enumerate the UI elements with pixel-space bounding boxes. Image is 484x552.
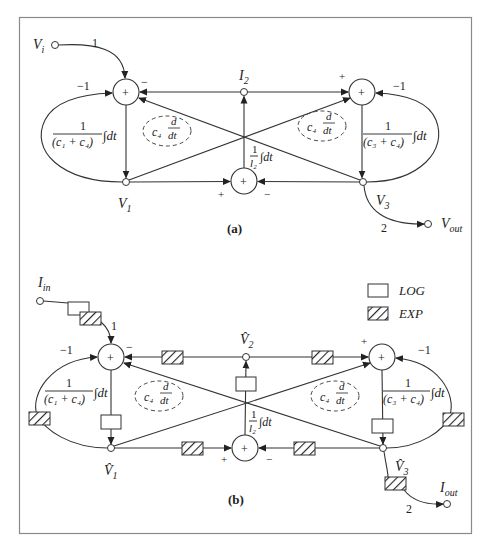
svg-text:∫dt: ∫dt: [259, 150, 273, 164]
svg-text:∫dt: ∫dt: [430, 385, 445, 401]
right-integrator-a: 1 (c₃ + c₄) ∫dt: [363, 119, 427, 149]
bottom-summer-sign-left-a: +: [218, 188, 224, 200]
bottom-summer-sign-right-b: −: [266, 453, 272, 465]
input-gain-a: 1: [92, 36, 98, 50]
legend-log-label: LOG: [398, 283, 426, 298]
left-feedback-gain-a: −1: [77, 79, 90, 93]
svg-text:∫dt: ∫dt: [93, 385, 108, 401]
right-integrator-b: 1 (c₃ + c₄) ∫dt: [383, 376, 445, 406]
bottom-summer-sign-right-a: −: [264, 188, 270, 200]
output-node-vout: [425, 221, 432, 228]
diagram-b-caption: (b): [228, 492, 244, 507]
output-label-a: Vout: [441, 216, 463, 234]
bottom-right-exp-block: [294, 442, 315, 455]
svg-text:l₂: l₂: [249, 422, 256, 434]
svg-text:∫dt: ∫dt: [412, 128, 427, 144]
bottom-left-exp-block: [182, 442, 203, 455]
right-summer-sign-a: +: [339, 70, 345, 82]
left-summer-sign-a: −: [141, 75, 148, 89]
left-integrator-a: 1 (c₁ + c₄) ∫dt: [52, 119, 117, 149]
svg-text:1: 1: [66, 376, 72, 390]
left-feedback-exp-block: [29, 412, 50, 425]
input-label-b: Iin: [37, 275, 50, 293]
exp-block-icon: [368, 307, 388, 320]
node-i2-label: I2: [238, 68, 249, 86]
node-v1hat-label: V̂1: [104, 463, 118, 481]
diagram-a-caption: (a): [227, 221, 242, 236]
left-summer-sign-b: −: [126, 340, 133, 354]
center-integrator-b: 1 l₂ ∫dt: [249, 408, 272, 434]
svg-text:c₄: c₄: [144, 390, 154, 404]
svg-text:(c₁ + c₄): (c₁ + c₄): [44, 392, 85, 406]
output-edge-a: [364, 186, 424, 225]
top-right-exp-block: [312, 351, 333, 364]
log-block-icon: [368, 284, 388, 297]
right-feedback-exp-block: [443, 413, 464, 426]
right-differentiator-b: c₄ d dt: [311, 380, 359, 411]
svg-text:(c₃ + c₄): (c₃ + c₄): [363, 135, 404, 149]
node-v2hat: [243, 354, 250, 361]
svg-text:∫dt: ∫dt: [102, 128, 117, 144]
svg-text:d: d: [171, 115, 177, 127]
output-gain-a: 2: [381, 221, 387, 235]
diagram-a: Vi 1 + − + + + + − I2 V1 V3: [33, 36, 463, 236]
svg-text:d: d: [163, 380, 169, 392]
svg-text:d: d: [326, 110, 332, 122]
right-log-block: [372, 419, 393, 433]
legend: LOG EXP: [368, 283, 426, 321]
node-v3hat: [380, 445, 387, 452]
center-log-block: [236, 377, 256, 391]
svg-text:c₄: c₄: [307, 120, 317, 134]
svg-text:c₄: c₄: [320, 390, 330, 404]
output-exp-block: [385, 477, 406, 490]
legend-exp-label: EXP: [398, 306, 423, 321]
node-v1: [123, 179, 130, 186]
right-summer-symbol-a: +: [358, 86, 365, 100]
node-v1hat: [108, 445, 115, 452]
input-label-a: Vi: [33, 37, 45, 55]
input-gain-b: 1: [111, 319, 117, 333]
node-v3hat-label: V̂3: [395, 459, 409, 477]
output-label-b: Iout: [439, 480, 458, 498]
right-feedback-gain-a: −1: [393, 79, 406, 93]
left-feedback-gain-b: −1: [60, 343, 73, 357]
left-log-block: [101, 415, 121, 429]
svg-text:1: 1: [252, 143, 258, 155]
svg-text:dt: dt: [168, 129, 178, 141]
svg-text:(c₁ + c₄): (c₁ + c₄): [52, 135, 93, 149]
input-node-iin: [37, 298, 44, 305]
output-gain-b: 2: [406, 502, 412, 516]
input-exp-block: [80, 312, 101, 325]
left-differentiator-a: c₄ d dt: [143, 115, 191, 146]
svg-text:c₄: c₄: [152, 125, 162, 139]
right-summer-symbol-b: +: [378, 351, 385, 365]
svg-text:1: 1: [405, 376, 411, 390]
svg-text:1: 1: [251, 408, 257, 420]
node-v3: [360, 179, 367, 186]
left-summer-symbol-b: +: [107, 351, 114, 365]
figure: Vi 1 + − + + + + − I2 V1 V3: [0, 0, 484, 552]
svg-text:dt: dt: [323, 124, 333, 136]
svg-text:dt: dt: [336, 394, 346, 406]
node-i2: [241, 89, 248, 96]
svg-text:dt: dt: [160, 394, 170, 406]
input-edge-b: [101, 322, 111, 343]
top-left-exp-block: [162, 351, 183, 364]
right-summer-sign-b: +: [361, 335, 367, 347]
svg-text:1: 1: [385, 119, 391, 133]
node-v3-label: V3: [376, 193, 390, 211]
bottom-summer-symbol-a: +: [240, 175, 247, 189]
right-feedback-gain-b: −1: [418, 343, 431, 357]
svg-text:l₂: l₂: [250, 157, 257, 169]
left-summer-symbol-a: +: [122, 86, 129, 100]
bottom-summer-sign-left-b: +: [221, 453, 227, 465]
svg-text:d: d: [339, 380, 345, 392]
bottom-summer-symbol-b: +: [241, 442, 248, 456]
output-node-iout: [444, 501, 451, 508]
input-node-vi: [52, 42, 59, 49]
svg-text:(c₃ + c₄): (c₃ + c₄): [383, 392, 424, 406]
svg-text:∫dt: ∫dt: [258, 415, 272, 429]
svg-text:1: 1: [80, 119, 86, 133]
node-v1-label: V1: [118, 196, 132, 214]
node-v2hat-label: V̂2: [240, 332, 254, 350]
